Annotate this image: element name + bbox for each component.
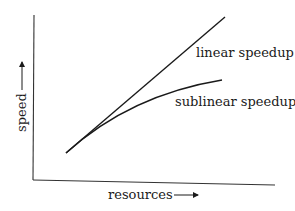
linear-speedup-label: linear speedup [196, 45, 294, 60]
sublinear-speedup-curve [66, 80, 222, 153]
y-axis-label: speed [14, 93, 29, 132]
y-axis [33, 15, 34, 180]
x-axis-label: resources [108, 187, 173, 202]
speedup-diagram: linear speedup sublinear speedup resourc… [0, 0, 295, 211]
linear-speedup-line [66, 17, 225, 153]
sublinear-speedup-label: sublinear speedup [175, 94, 295, 109]
x-axis [33, 180, 275, 185]
